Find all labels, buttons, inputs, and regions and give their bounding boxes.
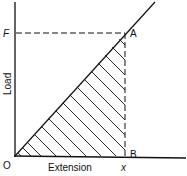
hatched-area: [5, 0, 187, 165]
point-a-label: A: [130, 28, 137, 39]
load-extension-diagram: F A B O Extension x Load: [0, 0, 187, 176]
point-b-label: B: [130, 149, 137, 160]
x-axis: [14, 156, 186, 158]
origin-label: O: [3, 160, 11, 171]
extension-value-label: x: [120, 162, 127, 173]
load-line: [15, 2, 155, 156]
x-axis-label: Extension: [48, 162, 92, 173]
y-axis-label: Load: [2, 73, 13, 95]
load-value-label: F: [3, 28, 10, 39]
